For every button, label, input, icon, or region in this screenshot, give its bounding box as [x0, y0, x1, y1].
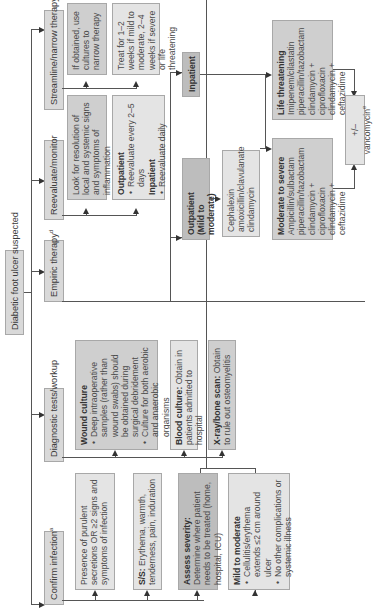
box-title: Wound culture	[79, 345, 89, 445]
footnote-marker: a	[48, 528, 54, 531]
header-label: Confirm infection	[49, 531, 59, 600]
purulent-criteria-box: Presence of purulent secretions OR ≥2 si…	[75, 473, 115, 590]
box-title: Outpatient	[116, 100, 126, 195]
narrow-with-cultures-box: If obtained, use cultures to narrow ther…	[67, 3, 107, 75]
arrow-icon	[144, 590, 150, 596]
vancomycin-box: +/– vancomycine	[345, 95, 365, 165]
header-label: Reevaluate/monitor	[49, 135, 59, 215]
bullet-item: Cellulitis/erythema extends ≤2 cm around…	[242, 478, 273, 577]
root-connector	[24, 292, 31, 293]
inpatient-box: Inpatient	[182, 52, 200, 97]
drug-line: piperacillin/tazobactam	[296, 25, 306, 115]
arrow-icon	[112, 450, 118, 456]
arrow-icon	[215, 196, 221, 202]
mild-to-moderate-box: Mild to moderate Cellulitis/erythema ext…	[228, 473, 290, 590]
life-threatening-box: Life threatening Imipenem/cilastatin pip…	[272, 20, 333, 120]
drug-line: Cephalexin	[226, 155, 236, 232]
arrow-icon	[83, 208, 89, 214]
box-text: Look for resolution of local and systemi…	[71, 102, 112, 195]
connector	[62, 88, 136, 89]
header-label: Empiric therapy	[49, 233, 59, 297]
box-text: Treat for 1–2 weeks if mild to moderate,…	[116, 11, 177, 70]
connector	[62, 457, 222, 458]
assess-severity-box: Assess severity: Determine where patient…	[178, 473, 218, 590]
signs-symptoms-box: S/S: Erythema, warmth, tenderness, pain,…	[133, 473, 162, 590]
bullet-item: Deep intraoperative samples (rather than…	[89, 345, 140, 437]
reevaluate-settings-box: Outpatient Reevaluate every 2–5 days Inp…	[112, 95, 165, 200]
wound-culture-box: Wound culture Deep intraoperative sample…	[75, 340, 158, 450]
box-title: Assess severity:	[182, 517, 192, 585]
bullet-item: Culture for both aerobic and anaerobic o…	[140, 345, 171, 437]
box-title: Inpatient	[147, 100, 157, 195]
header-streamline-therapy: Streamline/narrow therapy	[44, 10, 64, 110]
connector	[354, 167, 355, 189]
arrow-icon	[133, 81, 139, 87]
look-for-resolution-box: Look for resolution of local and systemi…	[67, 95, 107, 200]
drug-line: Imipenem/cilastatin	[286, 25, 296, 115]
header-reevaluate-monitor: Reevaluate/monitor	[44, 140, 64, 220]
connector	[200, 468, 256, 469]
spine-line	[31, 30, 32, 605]
arrow-icon	[252, 590, 258, 596]
box-title: Inpatient	[187, 56, 197, 92]
box-subtitle: (Mild to moderate)	[196, 163, 216, 235]
drug-line: piperacillin/tazobactam	[296, 143, 306, 235]
box-title: X-ray/bone scan:	[212, 376, 222, 445]
outpatient-mild-box: Outpatient (Mild to moderate)	[182, 158, 210, 240]
connector	[200, 74, 265, 75]
connector	[333, 188, 355, 189]
arrow-icon	[133, 208, 139, 214]
connector	[354, 70, 355, 92]
box-title: S/S:	[137, 568, 147, 585]
connector	[333, 69, 355, 70]
header-label: Streamline/narrow therapy	[49, 0, 59, 105]
box-text: Determine where patient needs to be trea…	[192, 482, 222, 585]
drug-line: amoxicillin/clavulanate	[236, 155, 246, 232]
box-title: Mild to moderate	[232, 478, 242, 585]
connector	[62, 600, 204, 601]
blood-culture-box: Blood culture: Obtain in patients admitt…	[170, 340, 198, 450]
treatment-duration-box: Treat for 1–2 weeks if mild to moderate,…	[112, 3, 160, 75]
footnote-marker: d	[48, 230, 54, 233]
header-confirm-infection: Confirm infectiona	[44, 531, 64, 605]
arrow-icon	[219, 450, 225, 456]
header-label: Diagnostic tests/workup	[49, 360, 59, 457]
header-empiric-therapy: Empiric therapyd	[44, 240, 64, 302]
connector	[62, 215, 137, 216]
drug-line: clindamycin + ciprofloxacin	[307, 25, 327, 115]
box-text: Presence of purulent secretions OR ≥2 si…	[79, 479, 109, 585]
arrow-icon	[181, 450, 187, 456]
moderate-to-severe-box: Moderate to severe Ampicillin/sulbactam …	[272, 138, 333, 240]
bullet-item: Reevaluate every 2–5 days	[126, 100, 146, 187]
arrow-icon	[92, 590, 98, 596]
drug-line: Ampicillin/sulbactam	[286, 143, 296, 235]
root-box: Diabetic foot ulcer suspected	[5, 250, 24, 335]
arrow-icon	[83, 81, 89, 87]
box-title: Life threatening	[276, 25, 286, 115]
box-text: +/– vancomycin	[350, 109, 372, 154]
drug-line: clindamycin + ciprofloxacin	[307, 143, 327, 235]
connector	[170, 73, 171, 302]
root-label: Diabetic foot ulcer suspected	[10, 212, 20, 330]
outpatient-drugs-box: Cephalexin amoxicillin/clavulanate clind…	[222, 150, 260, 237]
connector	[265, 75, 266, 149]
connector	[200, 469, 201, 473]
header-diagnostic-tests: Diagnostic tests/workup	[44, 388, 64, 462]
box-title: Blood culture:	[174, 387, 184, 445]
footnote-marker: e	[361, 106, 367, 109]
bullet-item: Reevaluate daily	[157, 100, 167, 187]
drug-line: clindamycin	[246, 155, 256, 232]
bullet-item: No other complications or systemic illne…	[273, 478, 293, 577]
box-title: Outpatient	[186, 163, 196, 235]
xray-bone-scan-box: X-ray/bone scan: Obtain to rule out oste…	[208, 340, 236, 450]
box-text: If obtained, use cultures to narrow ther…	[71, 11, 101, 70]
arrow-icon	[194, 590, 200, 596]
box-title: Moderate to severe	[276, 143, 286, 235]
connector	[62, 301, 365, 302]
